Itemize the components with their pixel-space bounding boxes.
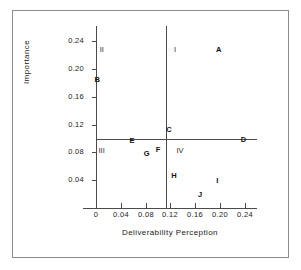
data-point-j: J <box>193 191 207 199</box>
y-axis-tick <box>92 69 97 70</box>
x-axis-tick <box>195 203 196 208</box>
y-axis-tick-label: 0.12 <box>50 121 84 129</box>
x-axis-tick <box>146 203 147 208</box>
x-axis-tick-label: 0.24 <box>230 210 260 219</box>
quadrant-label-iv: IV <box>177 147 184 155</box>
x-axis-tick <box>121 203 122 208</box>
data-point-b: B <box>90 76 104 84</box>
y-axis-tick <box>92 41 97 42</box>
data-point-h: H <box>167 172 181 180</box>
y-axis-tick-label: 0.16 <box>50 93 84 101</box>
scatter-plot-figure: 0.040.080.120.160.200.2400.040.080.120.1… <box>0 0 301 270</box>
y-axis-tick-label: 0.20 <box>50 65 84 73</box>
y-axis-tick <box>92 180 97 181</box>
x-axis-tick <box>96 203 97 208</box>
quadrant-label-iii: III <box>98 147 104 155</box>
y-axis-tick-label: 0.08 <box>50 148 84 156</box>
data-point-a: A <box>212 46 226 54</box>
quadrant-label-i: I <box>174 46 176 54</box>
data-point-d: D <box>236 136 250 144</box>
y-axis-tick <box>92 125 97 126</box>
quadrant-vertical-divider <box>166 26 167 209</box>
y-axis-title: Importance <box>22 40 31 84</box>
data-point-i: I <box>210 177 224 185</box>
data-point-g: G <box>140 150 154 158</box>
plot-area: 0.040.080.120.160.200.2400.040.080.120.1… <box>0 0 301 270</box>
quadrant-label-ii: II <box>100 46 104 54</box>
data-point-c: C <box>162 126 176 134</box>
data-point-e: E <box>125 137 139 145</box>
y-axis-tick <box>92 152 97 153</box>
x-axis-line <box>83 208 257 209</box>
x-axis-title: Deliverability Perception <box>83 228 257 237</box>
y-axis-line <box>96 26 97 209</box>
quadrant-horizontal-divider <box>96 139 257 140</box>
y-axis-tick-label: 0.24 <box>50 37 84 45</box>
y-axis-tick <box>92 97 97 98</box>
x-axis-tick <box>245 203 246 208</box>
y-axis-tick-label: 0.04 <box>50 176 84 184</box>
x-axis-tick <box>220 203 221 208</box>
x-axis-tick <box>170 203 171 208</box>
